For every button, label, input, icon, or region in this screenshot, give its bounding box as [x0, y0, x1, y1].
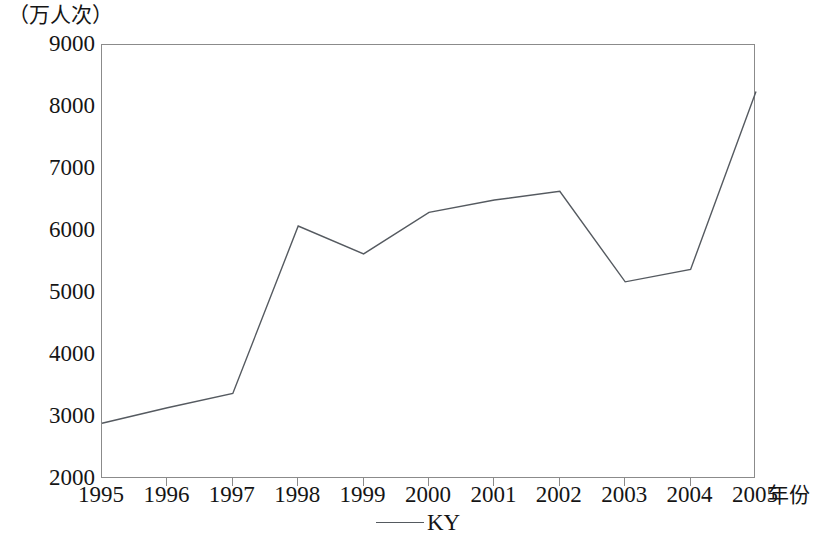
y-axis-tick-label: 9000	[3, 32, 95, 55]
line-chart-figure: （万人次） 90008000700060005000400030002000 1…	[0, 0, 836, 537]
legend-item-label: KY	[427, 511, 460, 534]
y-axis-tick-label-group: 90008000700060005000400030002000	[0, 0, 95, 537]
chart-legend: KY	[0, 508, 836, 536]
y-axis-tick-label: 5000	[3, 280, 95, 303]
legend-item-ky: KY	[376, 511, 460, 534]
series-plot-svg	[102, 45, 756, 479]
y-axis-tick-label: 7000	[3, 156, 95, 179]
x-axis-title: 年份	[768, 482, 810, 508]
y-axis-tick-label: 6000	[3, 218, 95, 241]
plot-area-frame	[101, 44, 755, 478]
series-line-ky	[102, 92, 756, 424]
y-axis-tick-label: 4000	[3, 342, 95, 365]
legend-line-swatch-icon	[376, 522, 424, 523]
y-axis-tick-label: 3000	[3, 404, 95, 427]
y-axis-tick-label: 8000	[3, 94, 95, 117]
